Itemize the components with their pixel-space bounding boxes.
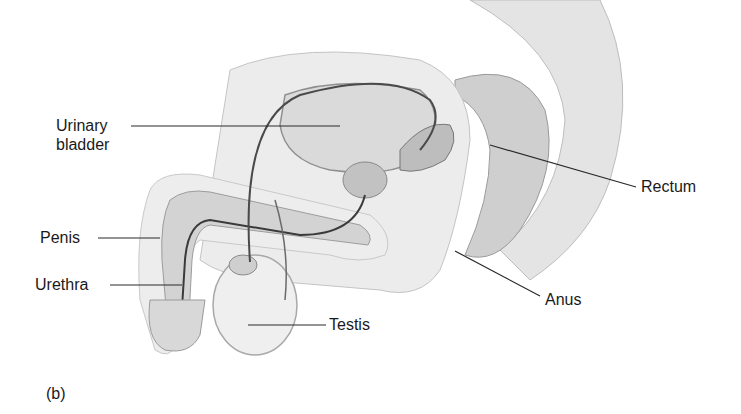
- anatomy-diagram: Urinary bladder Penis Urethra Testis Rec…: [0, 0, 741, 414]
- label-urinary-bladder-line1: Urinary: [56, 116, 109, 135]
- label-urethra: Urethra: [35, 275, 88, 294]
- label-rectum: Rectum: [641, 177, 696, 196]
- epididymis-shape: [229, 255, 257, 275]
- panel-label: (b): [46, 385, 66, 403]
- glans-shape: [149, 300, 205, 351]
- anatomy-illustration: [0, 0, 741, 414]
- label-anus: Anus: [545, 290, 581, 309]
- label-urinary-bladder-line2: bladder: [56, 135, 109, 154]
- prostate-shape: [343, 162, 387, 198]
- label-penis: Penis: [40, 228, 80, 247]
- label-urinary-bladder: Urinary bladder: [56, 116, 109, 154]
- label-testis: Testis: [329, 315, 370, 334]
